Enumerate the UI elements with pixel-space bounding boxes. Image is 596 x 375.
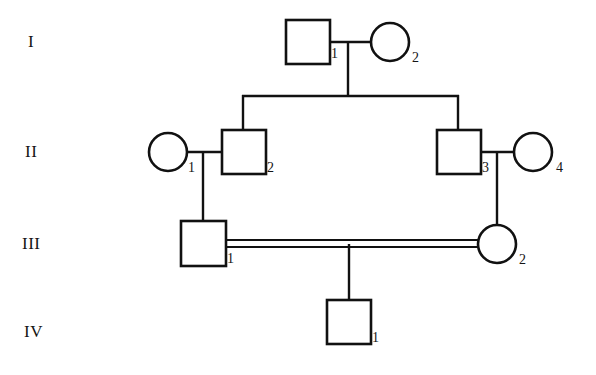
pedigree-chart: I II III IV 1 2 1 2 3 4 1 2 1 (0, 0, 596, 375)
generation-label-IV: IV (24, 322, 43, 342)
individual-number-III-2: 2 (519, 252, 526, 268)
symbol-II-3-male-square[interactable] (437, 130, 481, 174)
symbol-IV-1-male-square[interactable] (327, 300, 371, 344)
individual-number-II-4: 4 (556, 160, 563, 176)
generation-label-II: II (25, 142, 37, 162)
mating-III1-III2-consanguineous (226, 240, 479, 301)
symbol-II-1-female-circle[interactable] (149, 133, 187, 171)
symbol-I-2-female-circle[interactable] (371, 23, 409, 61)
individual-number-III-1: 1 (227, 251, 234, 267)
generation-label-I: I (28, 32, 34, 52)
symbol-II-4-female-circle[interactable] (514, 133, 552, 171)
symbol-III-1-male-square[interactable] (181, 221, 226, 266)
generation-label-III: III (22, 234, 40, 254)
symbol-III-2-female-circle[interactable] (478, 225, 516, 263)
symbol-II-2-male-square[interactable] (222, 130, 266, 174)
individual-number-II-2: 2 (267, 160, 274, 176)
individual-number-IV-1: 1 (372, 330, 379, 346)
individual-number-I-2: 2 (412, 50, 419, 66)
pedigree-diagram-canvas (0, 0, 596, 375)
individual-number-II-1: 1 (188, 160, 195, 176)
individual-number-I-1: 1 (331, 46, 338, 62)
symbol-I-1-male-square[interactable] (286, 20, 330, 64)
individual-number-II-3: 3 (482, 160, 489, 176)
sibship-generation-II (242, 95, 459, 131)
